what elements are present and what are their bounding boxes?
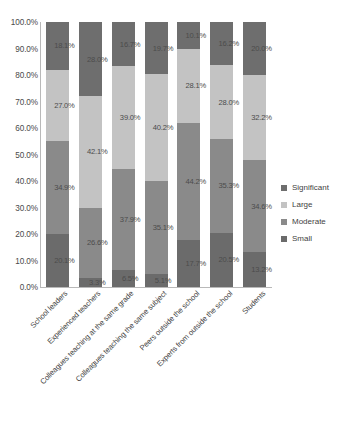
bar-column[interactable]: 16.7%39.0%37.9%6.5%: [107, 22, 140, 287]
y-axis-tick: 20.0%: [0, 230, 38, 239]
bar-segment[interactable]: 35.3%: [210, 139, 233, 233]
bar-segment-label: 17.7%: [186, 259, 207, 268]
bar-segment[interactable]: 20.1%: [46, 234, 69, 287]
bar-segment-label: 28.0%: [87, 55, 108, 64]
bar-segment-label: 6.5%: [122, 274, 139, 283]
bar-segment-label: 34.6%: [251, 202, 272, 211]
stacked-bar[interactable]: 18.1%27.0%34.9%20.1%: [46, 22, 69, 287]
bar-segment[interactable]: 42.1%: [79, 96, 102, 208]
bar-segment-label: 39.0%: [120, 113, 141, 122]
stacked-bar[interactable]: 16.2%28.0%35.3%20.5%: [210, 22, 233, 287]
y-axis-tick: 50.0%: [0, 150, 38, 159]
bar-segment-label: 20.1%: [54, 256, 75, 265]
legend-item[interactable]: Significant: [281, 183, 329, 192]
bar-segment[interactable]: 17.7%: [177, 240, 200, 287]
bar-segment[interactable]: 5.1%: [145, 274, 168, 287]
bar-segment-label: 19.7%: [153, 44, 174, 53]
y-axis-tick: 40.0%: [0, 177, 38, 186]
y-axis: 100.0%90.0%80.0%70.0%60.0%50.0%40.0%30.0…: [0, 22, 38, 287]
legend-swatch-icon: [281, 219, 287, 225]
bar-segment[interactable]: 28.0%: [79, 22, 102, 96]
bar-segment[interactable]: 27.0%: [46, 70, 69, 141]
bar-segment[interactable]: 20.0%: [243, 22, 266, 75]
bar-column[interactable]: 18.1%27.0%34.9%20.1%: [41, 22, 74, 287]
bar-segment[interactable]: 28.1%: [177, 49, 200, 123]
bar-segment[interactable]: 16.2%: [210, 22, 233, 65]
bar-segment-label: 32.2%: [251, 113, 272, 122]
y-axis-tick: 100.0%: [0, 18, 38, 27]
bar-segment[interactable]: 26.6%: [79, 208, 102, 278]
bar-segment[interactable]: 13.2%: [243, 252, 266, 287]
bar-segment[interactable]: 3.3%: [79, 278, 102, 287]
bar-column[interactable]: 19.7%40.2%35.1%5.1%: [140, 22, 173, 287]
stacked-bar[interactable]: 16.7%39.0%37.9%6.5%: [112, 22, 135, 287]
bar-segment-label: 40.2%: [153, 123, 174, 132]
x-axis-tick-label: Peers outside the school: [138, 289, 201, 352]
bar-segment[interactable]: 39.0%: [112, 66, 135, 169]
bar-segment[interactable]: 35.1%: [145, 181, 168, 274]
bar-segment[interactable]: 20.5%: [210, 233, 233, 287]
bar-segment-label: 35.3%: [218, 181, 239, 190]
legend-label: Small: [292, 234, 312, 243]
stacked-bar[interactable]: 19.7%40.2%35.1%5.1%: [145, 22, 168, 287]
bar-segment-label: 18.1%: [54, 41, 75, 50]
stacked-bar[interactable]: 20.0%32.2%34.6%13.2%: [243, 22, 266, 287]
bar-segment[interactable]: 32.2%: [243, 75, 266, 160]
bar-segment[interactable]: 34.9%: [46, 141, 69, 233]
bar-column[interactable]: 16.2%28.0%35.3%20.5%: [205, 22, 238, 287]
legend-label: Large: [292, 200, 312, 209]
bar-column[interactable]: 20.0%32.2%34.6%13.2%: [238, 22, 271, 287]
legend-swatch-icon: [281, 202, 287, 208]
bar-segment-label: 28.1%: [186, 81, 207, 90]
bar-segment-label: 27.0%: [54, 101, 75, 110]
x-axis-tick-label: Students: [240, 289, 267, 316]
legend-item[interactable]: Small: [281, 234, 329, 243]
stacked-bar[interactable]: 28.0%42.1%26.6%3.3%: [79, 22, 102, 287]
bar-segment[interactable]: 37.9%: [112, 169, 135, 269]
bar-segment[interactable]: 44.2%: [177, 123, 200, 240]
bar-segment-label: 16.2%: [218, 39, 239, 48]
legend-label: Significant: [292, 183, 329, 192]
bar-group: 18.1%27.0%34.9%20.1%28.0%42.1%26.6%3.3%1…: [41, 22, 271, 287]
bar-segment[interactable]: 18.1%: [46, 22, 69, 70]
stacked-bar[interactable]: 10.1%28.1%44.2%17.7%: [177, 22, 200, 287]
x-axis-labels: School leadersExperienced teachersCollea…: [41, 289, 271, 389]
bar-segment[interactable]: 40.2%: [145, 74, 168, 180]
legend-swatch-icon: [281, 236, 287, 242]
bar-segment-label: 5.1%: [155, 276, 172, 285]
bar-segment[interactable]: 16.7%: [112, 22, 135, 66]
y-axis-tick: 90.0%: [0, 44, 38, 53]
bar-segment-label: 20.5%: [218, 255, 239, 264]
legend: SignificantLargeModerateSmall: [281, 183, 329, 243]
bar-column[interactable]: 28.0%42.1%26.6%3.3%: [74, 22, 107, 287]
bar-segment[interactable]: 34.6%: [243, 160, 266, 252]
bar-segment-label: 16.7%: [120, 40, 141, 49]
bar-segment-label: 3.3%: [89, 278, 106, 287]
legend-swatch-icon: [281, 185, 287, 191]
bar-segment-label: 20.0%: [251, 44, 272, 53]
x-axis-line: [40, 287, 272, 288]
bar-segment-label: 34.9%: [54, 183, 75, 192]
y-axis-tick: 0.0%: [0, 283, 38, 292]
y-axis-tick: 60.0%: [0, 124, 38, 133]
chart-title: [0, 0, 345, 2]
bar-segment-label: 26.6%: [87, 238, 108, 247]
bar-segment[interactable]: 19.7%: [145, 22, 168, 74]
y-axis-tick: 70.0%: [0, 97, 38, 106]
legend-item[interactable]: Moderate: [281, 217, 329, 226]
bar-segment[interactable]: 6.5%: [112, 270, 135, 287]
bar-segment-label: 10.1%: [186, 31, 207, 40]
bar-segment-label: 37.9%: [120, 215, 141, 224]
bar-segment[interactable]: 10.1%: [177, 22, 200, 49]
bar-segment[interactable]: 28.0%: [210, 65, 233, 139]
bar-column[interactable]: 10.1%28.1%44.2%17.7%: [172, 22, 205, 287]
bar-segment-label: 35.1%: [153, 223, 174, 232]
bar-segment-label: 44.2%: [186, 177, 207, 186]
bar-segment-label: 13.2%: [251, 265, 272, 274]
y-axis-tick: 30.0%: [0, 203, 38, 212]
plot-area: 18.1%27.0%34.9%20.1%28.0%42.1%26.6%3.3%1…: [41, 22, 271, 287]
bar-segment-label: 42.1%: [87, 147, 108, 156]
stacked-bar-chart: 100.0%90.0%80.0%70.0%60.0%50.0%40.0%30.0…: [0, 0, 345, 436]
bar-segment-label: 28.0%: [218, 98, 239, 107]
legend-item[interactable]: Large: [281, 200, 329, 209]
